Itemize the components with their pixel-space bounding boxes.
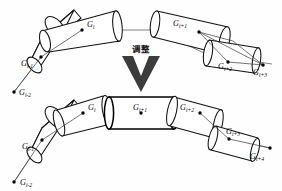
center-dot-gi-minus-1	[39, 55, 42, 58]
label-gi-minus-2: Gi-2	[20, 178, 32, 188]
endpoint-dot-gi-plus-3	[261, 63, 264, 66]
center-dot-gi-plus-3	[227, 137, 230, 140]
center-dot-gi	[81, 111, 84, 114]
endpoint-dot-gi-plus-4	[268, 146, 271, 149]
after-adjustment-chain: Gi Gi-1 Gi+1 Gi+2 Gi+3 Gi+4 Gi-2	[12, 95, 271, 188]
segment-gi-plus-2-body	[206, 40, 259, 73]
adjustment-transition: 调整	[122, 44, 160, 92]
endpoint-dot-gi-minus-2	[12, 90, 15, 93]
center-dot-gi-plus-2	[198, 111, 201, 114]
label-gi-plus-3: Gi+3	[253, 68, 267, 78]
center-dot-gi	[80, 28, 83, 31]
label-gi-minus-2: Gi-2	[19, 88, 31, 98]
adjustment-label: 调整	[132, 44, 151, 54]
endpoint-dot-gi-minus-2	[12, 180, 15, 183]
label-gi-plus-3: Gi+3	[226, 127, 240, 137]
label-gi-minus-1: Gi-1	[22, 142, 34, 152]
segment-gi-plus-1-near-cap	[104, 97, 113, 129]
chevron-down-arrow-icon	[122, 56, 160, 92]
center-dot-gi-minus-1	[40, 138, 43, 141]
diagram-canvas: Gi Gi-1 Gi+1 Gi+2 Gi+3 Gi-2 调整	[0, 0, 282, 191]
center-dot-gi-plus-1	[197, 30, 200, 33]
figure-container: Gi Gi-1 Gi+1 Gi+2 Gi+3 Gi-2 调整	[0, 0, 282, 191]
center-dot-gi-plus-2	[226, 60, 229, 63]
